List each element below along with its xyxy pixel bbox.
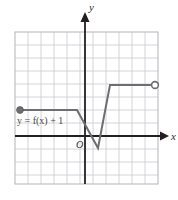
- open-endpoint-marker: [152, 82, 159, 89]
- closed-endpoint-marker: [17, 107, 24, 114]
- x-axis-label: x: [170, 130, 176, 142]
- y-axis-arrow: [81, 12, 90, 22]
- graph-figure: y x O y = f(x) + 1: [0, 0, 178, 200]
- origin-label: O: [76, 139, 83, 150]
- coordinate-plane-svg: y x O y = f(x) + 1: [0, 0, 178, 200]
- grid-lines: [15, 32, 158, 184]
- x-axis-arrow: [160, 132, 169, 141]
- y-axis-label: y: [88, 1, 94, 13]
- function-equation-label: y = f(x) + 1: [17, 115, 63, 127]
